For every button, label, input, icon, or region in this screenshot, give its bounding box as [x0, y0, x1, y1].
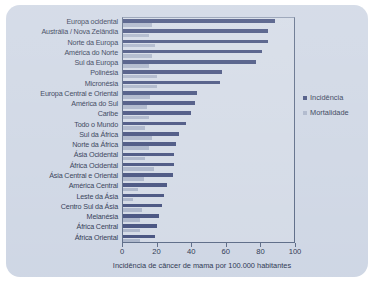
bar-incidencia [123, 163, 174, 167]
x-axis-tick-label: 80 [256, 247, 264, 256]
bar-mortalidade [123, 105, 147, 109]
bar-incidencia [123, 81, 220, 85]
category-label: América do Norte [6, 48, 120, 58]
bar-row [123, 69, 294, 79]
bar-row [123, 193, 294, 203]
bar-incidencia [123, 132, 179, 136]
category-label: África Ocidental [6, 161, 120, 171]
chart-legend: IncidênciaMortalidade [303, 93, 368, 123]
x-axis-tick-label: 20 [152, 247, 160, 256]
bar-row [123, 203, 294, 213]
bar-incidencia [123, 142, 176, 146]
bar-row [123, 110, 294, 120]
category-label: Sul da África [6, 130, 120, 140]
category-label: Norte da África [6, 140, 120, 150]
bar-row [123, 141, 294, 151]
bar-mortalidade [123, 95, 150, 99]
category-axis-labels: Europa ocidentalAustrália / Nova Zelândi… [6, 17, 120, 243]
bar-row [123, 49, 294, 59]
category-label: África Oriental [6, 233, 120, 243]
bar-row [123, 223, 294, 233]
bar-incidencia [123, 214, 159, 218]
category-label: Austrália / Nova Zelândia [6, 27, 120, 37]
bar-incidencia [123, 111, 191, 115]
category-label: África Central [6, 222, 120, 232]
bar-incidencia [123, 173, 173, 177]
bar-mortalidade [123, 116, 149, 120]
bar-incidencia [123, 194, 164, 198]
category-label: Europa ocidental [6, 17, 120, 27]
bar-mortalidade [123, 177, 144, 181]
bar-mortalidade [123, 23, 152, 27]
bar-mortalidade [123, 44, 155, 48]
plot-area [122, 17, 295, 243]
bar-incidencia [123, 50, 262, 54]
bar-incidencia [123, 101, 195, 105]
bar-mortalidade [123, 146, 149, 150]
bar-mortalidade [123, 157, 145, 161]
bar-incidencia [123, 204, 162, 208]
bar-incidencia [123, 40, 268, 44]
bar-row [123, 100, 294, 110]
bar-row [123, 172, 294, 182]
category-label: Leste da Ásia [6, 192, 120, 202]
bar-mortalidade [123, 64, 149, 68]
bar-incidencia [123, 235, 155, 239]
bar-mortalidade [123, 208, 142, 212]
bar-row [123, 131, 294, 141]
legend-item: Mortalidade [303, 108, 368, 117]
x-axis-title: Incidência de câncer de mama por 100.000… [52, 261, 352, 270]
category-label: Todo o Mundo [6, 120, 120, 130]
bar-incidencia [123, 60, 256, 64]
bar-row [123, 121, 294, 131]
category-label: Norte da Europa [6, 38, 120, 48]
bar-incidencia [123, 122, 186, 126]
bar-mortalidade [123, 188, 138, 192]
category-label: Ásia Ocidental [6, 150, 120, 160]
bar-row [123, 39, 294, 49]
bar-incidencia [123, 29, 268, 33]
bar-mortalidade [123, 85, 157, 89]
bar-mortalidade [123, 126, 145, 130]
category-label: Sul da Europa [6, 58, 120, 68]
category-label: Centro Sul da Ásia [6, 202, 120, 212]
bar-mortalidade [123, 167, 154, 171]
category-label: Caribe [6, 109, 120, 119]
bar-rows [123, 18, 294, 242]
bar-row [123, 18, 294, 28]
legend-item: Incidência [303, 93, 368, 102]
x-axis-tick-label: 0 [120, 247, 124, 256]
bar-row [123, 182, 294, 192]
category-label: Melanésia [6, 212, 120, 222]
bar-incidencia [123, 70, 222, 74]
bar-row [123, 162, 294, 172]
bar-row [123, 151, 294, 161]
bar-mortalidade [123, 218, 140, 222]
bar-incidencia [123, 224, 157, 228]
legend-swatch-icon [303, 96, 307, 100]
category-label: Europa Central e Oriental [6, 89, 120, 99]
bar-row [123, 90, 294, 100]
bar-mortalidade [123, 229, 140, 233]
category-label: Micronésia [6, 79, 120, 89]
category-label: Ásia Central e Oriental [6, 171, 120, 181]
bar-incidencia [123, 91, 197, 95]
bar-mortalidade [123, 34, 149, 38]
bar-row [123, 28, 294, 38]
legend-swatch-icon [303, 111, 307, 115]
chart-card: Europa ocidentalAustrália / Nova Zelândi… [6, 5, 368, 277]
bar-row [123, 213, 294, 223]
category-label: América do Sul [6, 99, 120, 109]
bar-row [123, 80, 294, 90]
x-axis-tick-label: 40 [187, 247, 195, 256]
bar-mortalidade [123, 136, 152, 140]
bar-mortalidade [123, 75, 157, 79]
x-axis-tick-label: 100 [289, 247, 302, 256]
bar-incidencia [123, 19, 275, 23]
bar-row [123, 59, 294, 69]
bar-incidencia [123, 183, 167, 187]
legend-label: Incidência [310, 93, 343, 102]
chart-figure: Europa ocidentalAustrália / Nova Zelândi… [0, 0, 374, 283]
bar-mortalidade [123, 54, 152, 58]
bar-mortalidade [123, 198, 133, 202]
